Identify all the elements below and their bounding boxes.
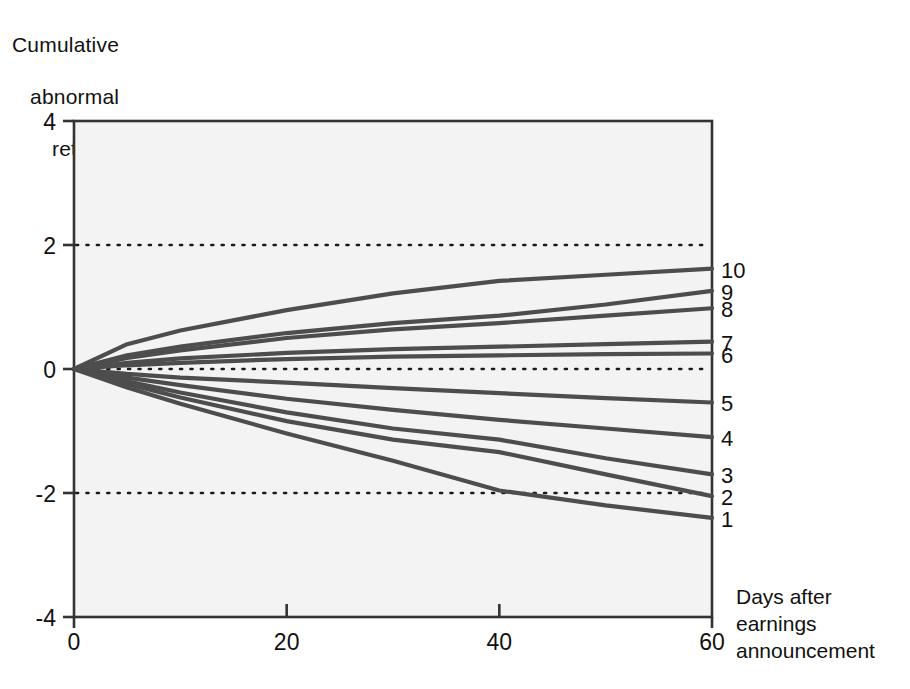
y-tick-label-4: 4	[43, 109, 56, 135]
series-label-4: 4	[721, 426, 733, 451]
chart-canvas: 420-2-4 0204060 10987654321	[0, 0, 910, 689]
x-tick-label-0: 0	[68, 629, 81, 655]
y-tick-label-0: 0	[43, 357, 56, 383]
y-tick-label--4: -4	[36, 605, 57, 631]
x-tick-label-40: 40	[487, 629, 513, 655]
series-end-labels: 10987654321	[721, 258, 745, 532]
series-label-10: 10	[721, 258, 745, 283]
x-axis-tick-labels: 0204060	[68, 629, 725, 655]
y-tick-label-2: 2	[43, 233, 56, 259]
x-tick-label-20: 20	[274, 629, 300, 655]
series-label-8: 8	[721, 297, 733, 322]
chart-page: Cumulative abnormal return Days after ea…	[0, 0, 910, 689]
series-label-5: 5	[721, 391, 733, 416]
x-tick-label-60: 60	[699, 629, 725, 655]
y-axis-tick-labels: 420-2-4	[36, 109, 57, 631]
series-label-6: 6	[721, 343, 733, 368]
y-tick-label--2: -2	[36, 481, 56, 507]
series-label-1: 1	[721, 507, 733, 532]
